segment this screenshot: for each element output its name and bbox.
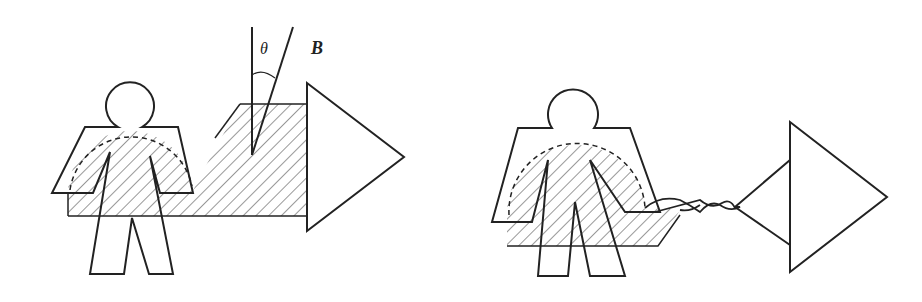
theta-label: θ (260, 40, 268, 58)
person-icon-left (52, 82, 193, 274)
right-panel (492, 89, 887, 276)
connector-triangle (735, 160, 790, 245)
twisted-pair-wire (645, 199, 740, 212)
left-panel (52, 27, 404, 274)
diagram-canvas (0, 0, 922, 302)
arrow-triangle-right (790, 122, 887, 272)
arrow-triangle-left (307, 83, 404, 231)
field-b-label: B (311, 38, 323, 59)
